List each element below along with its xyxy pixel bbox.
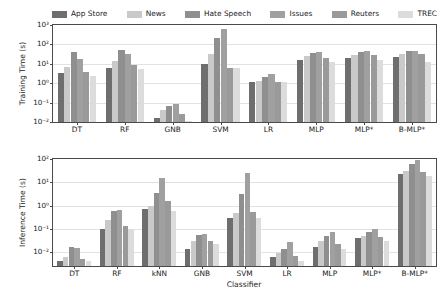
bar [316, 52, 322, 122]
bar [63, 257, 68, 266]
bar [318, 241, 323, 266]
x-axis-tick-label: DT [69, 270, 79, 277]
y-axis-tick-label: 10² [37, 155, 49, 162]
legend-label: Hate Speech [204, 10, 251, 17]
bar [118, 50, 124, 122]
bar [179, 114, 185, 122]
legend-swatch-icon [52, 11, 67, 18]
y-axis-tick-label: 10² [37, 41, 49, 48]
x-axis-tick-label: LR [264, 126, 273, 133]
bar [196, 235, 201, 266]
y-axis-tick-label: 10¹ [37, 60, 49, 67]
figure-root: App StoreNewsHate SpeechIssuesReutersTRE… [0, 0, 441, 292]
bar [201, 64, 207, 122]
bar [364, 51, 370, 122]
bar [345, 58, 351, 122]
bar [131, 65, 137, 122]
x-axis-tick-label: MLP [322, 270, 337, 277]
bar [281, 249, 286, 266]
bar [117, 210, 122, 266]
y-axis-tick-label: 10¹ [37, 179, 49, 186]
bar [420, 172, 425, 266]
x-axis-tick-label: GNB [165, 126, 181, 133]
bar [406, 51, 412, 122]
bar [191, 241, 196, 266]
legend-label: TREC [417, 10, 436, 17]
bar [160, 110, 166, 122]
legend-entry: TREC [398, 10, 436, 17]
bar [208, 54, 214, 122]
bar [185, 121, 191, 122]
bar [324, 236, 329, 266]
training-time-y-axis-title: Training Time (s) [18, 42, 27, 105]
bar [142, 209, 147, 266]
bar [185, 249, 190, 266]
x-axis-tick-label: GNB [194, 270, 210, 277]
bar [171, 211, 176, 266]
y-axis-tick-label: 10⁰ [37, 202, 49, 209]
bar [74, 248, 79, 266]
bar [293, 256, 298, 266]
y-axis-tick-label: 10³ [37, 21, 49, 28]
bar [270, 257, 275, 266]
bar [148, 206, 153, 266]
bar [371, 55, 377, 122]
x-axis-tick-label: B-MLP* [399, 126, 425, 133]
bar [154, 118, 160, 122]
bar [80, 259, 85, 266]
legend-label: App Store [71, 10, 107, 17]
bar [159, 178, 164, 266]
inference-time-plot-area: 10⁻²10⁻¹10⁰10¹10²DTRFkNNGNBSVMLRMLPMLP*B… [52, 158, 437, 267]
y-axis-tick-label: 10⁻² [33, 118, 49, 125]
bar [377, 60, 383, 122]
bar [355, 238, 360, 266]
training-time-plot-area: 10⁻²10⁻¹10⁰10¹10²10³DTRFGNBSVMLRMLPMLP*B… [52, 24, 437, 123]
x-axis-tick-label: LR [282, 270, 291, 277]
bar [239, 194, 244, 266]
bar [287, 242, 292, 266]
bar [403, 171, 408, 266]
bar [221, 29, 227, 122]
bar [298, 261, 303, 266]
legend-swatch-icon [270, 11, 285, 18]
bar [425, 62, 431, 122]
bar [398, 174, 403, 266]
bar [165, 201, 170, 266]
x-axis-tick-label: SVM [213, 126, 229, 133]
legend-label: Issues [289, 10, 312, 17]
bar [208, 241, 213, 266]
y-axis-tick-mark [50, 122, 53, 123]
bar [213, 244, 218, 266]
bar [227, 68, 233, 122]
bar [281, 82, 287, 122]
bar [233, 213, 238, 267]
y-axis-tick-mark [50, 159, 53, 160]
gridline [53, 44, 436, 45]
classifier-x-axis-title: Classifier [227, 280, 262, 289]
x-axis-tick-label: MLP* [363, 270, 382, 277]
x-axis-tick-label: RF [112, 270, 121, 277]
legend-swatch-icon [398, 11, 413, 18]
bar [106, 68, 112, 122]
bar [111, 211, 116, 266]
bar [384, 241, 389, 266]
bar [409, 164, 414, 266]
bar [128, 229, 133, 266]
bar [393, 57, 399, 122]
bar [256, 81, 262, 122]
chart-legend: App StoreNewsHate SpeechIssuesReutersTRE… [52, 6, 437, 22]
bar [268, 74, 274, 122]
bar [123, 226, 128, 266]
bar [426, 176, 431, 266]
bar [399, 54, 405, 122]
bar [341, 249, 346, 266]
x-axis-tick-label: kNN [152, 270, 167, 277]
bar [227, 218, 232, 266]
bar [256, 218, 261, 266]
bar [366, 232, 371, 266]
bar [351, 55, 357, 122]
bar [77, 59, 83, 122]
bar [304, 56, 310, 122]
bar [329, 62, 335, 122]
x-axis-tick-label: RF [120, 126, 129, 133]
